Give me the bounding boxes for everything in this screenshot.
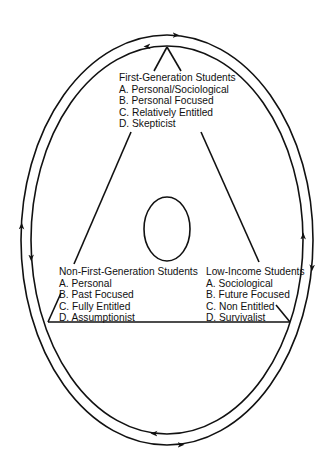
group-item: D. Survivalist xyxy=(206,312,305,324)
center-ellipse xyxy=(144,197,190,261)
group-title: Non-First-Generation Students xyxy=(59,266,198,278)
group-item: B. Future Focused xyxy=(206,289,305,301)
low-income-group: Low-Income Students A. Sociological B. F… xyxy=(206,266,305,324)
group-title: First-Generation Students xyxy=(119,72,236,84)
group-item: C. Relatively Entitled xyxy=(119,107,236,119)
non-first-generation-group: Non-First-Generation Students A. Persona… xyxy=(59,266,198,324)
group-item: D. Assumptionist xyxy=(59,312,198,324)
diagram-canvas xyxy=(0,0,330,459)
group-item: A. Sociological xyxy=(206,278,305,290)
group-item: A. Personal xyxy=(59,278,198,290)
group-item: A. Personal/Sociological xyxy=(119,84,236,96)
group-title: Low-Income Students xyxy=(206,266,305,278)
group-item: C. Fully Entitled xyxy=(59,301,198,313)
group-item: B. Past Focused xyxy=(59,289,198,301)
group-item: C. Non Entitled xyxy=(206,301,305,313)
first-generation-group: First-Generation Students A. Personal/So… xyxy=(119,72,236,130)
group-item: B. Personal Focused xyxy=(119,95,236,107)
group-item: D. Skepticist xyxy=(119,118,236,130)
